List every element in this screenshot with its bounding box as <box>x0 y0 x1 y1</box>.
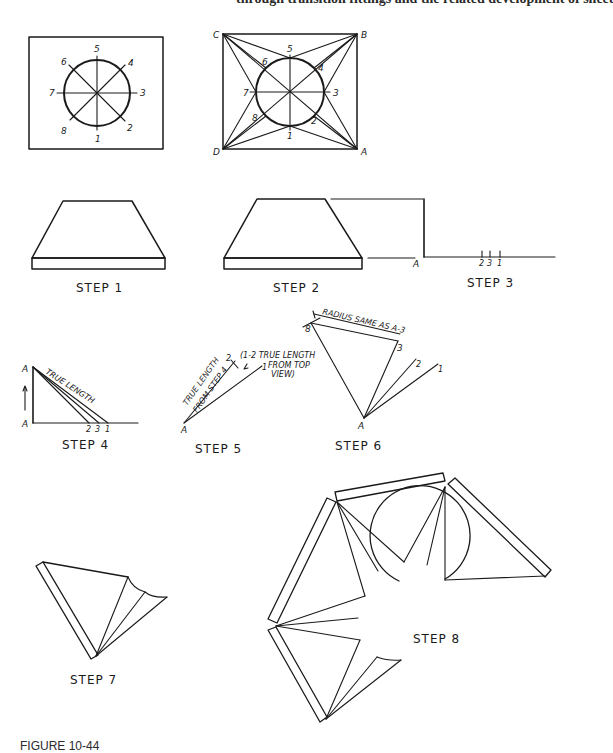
step-7-partial-development <box>36 562 167 659</box>
step-4-tick-2: 2 <box>86 425 91 434</box>
point-label-2: 2 <box>127 123 133 133</box>
step-5-label: STEP 5 <box>195 442 242 456</box>
point-label-4: 4 <box>128 58 134 68</box>
step-5-note-right-2: FROM TOP <box>268 361 310 370</box>
point-label-5: 5 <box>287 44 293 54</box>
point-label-7: 7 <box>243 88 249 98</box>
step-4-point-a-bottom: A <box>21 419 28 429</box>
step-6-radius-note: RADIUS SAME AS A-3 <box>322 307 406 335</box>
point-label-1: 1 <box>287 131 293 141</box>
step-2-label: STEP 2 <box>273 281 320 295</box>
point-label-2: 2 <box>311 116 317 126</box>
figure-caption: FIGURE 10-44 <box>20 739 99 753</box>
step-3-point-a: A <box>412 259 419 269</box>
step-3-true-height-construction <box>424 199 555 257</box>
step-5-point-2: 2 <box>226 354 231 363</box>
point-label-8: 8 <box>61 126 67 136</box>
point-label-1: 1 <box>95 134 101 144</box>
point-label-3: 3 <box>333 88 339 98</box>
point-label-5: 5 <box>94 44 100 54</box>
step-8-full-development <box>268 473 551 722</box>
pointer-arrow-icon <box>244 364 248 369</box>
step-3-tick-3: 3 <box>487 259 492 268</box>
point-label-6: 6 <box>61 57 67 67</box>
step-6-label: STEP 6 <box>335 439 382 453</box>
step-5-point-1: 1 <box>262 363 267 372</box>
step-3-label: STEP 3 <box>467 276 514 290</box>
point-label-7: 7 <box>49 88 55 98</box>
point-label-6: 6 <box>262 57 268 67</box>
step-7-label: STEP 7 <box>70 673 117 687</box>
step-4-point-a-top: A <box>21 364 28 374</box>
step-3-tick-1: 1 <box>497 259 502 268</box>
step-8-label: STEP 8 <box>413 632 460 646</box>
step-5-note-right-3: VIEW) <box>271 370 295 379</box>
step-4-label: STEP 4 <box>62 438 109 452</box>
step-6-point-2: 2 <box>416 360 421 369</box>
step-6-point-1: 1 <box>438 365 443 374</box>
step-4-tick-3: 3 <box>95 425 100 434</box>
step-4-tick-1: 1 <box>105 425 110 434</box>
step-5-note-right-1: (1-2 TRUE LENGTH <box>240 351 315 360</box>
step-5-point-a: A <box>180 425 187 435</box>
point-label-3: 3 <box>140 88 146 98</box>
step-6-point-8: 8 <box>305 324 311 334</box>
corner-label-a: A <box>360 147 367 157</box>
corner-label-d: D <box>213 147 220 157</box>
step-6-point-3: 3 <box>397 343 403 353</box>
step-3-tick-2: 2 <box>479 259 484 268</box>
corner-label-b: B <box>361 30 367 40</box>
point-label-4: 4 <box>318 63 324 73</box>
point-label-8: 8 <box>252 113 258 123</box>
step-1-front-view <box>32 201 165 269</box>
step-2-front-view <box>224 199 423 269</box>
corner-label-c: C <box>213 30 220 40</box>
step-6-point-a: A <box>357 421 364 431</box>
step-1-label: STEP 1 <box>76 281 123 295</box>
